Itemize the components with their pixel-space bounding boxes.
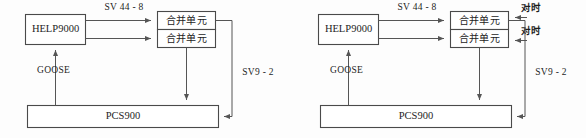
right-edge-label-sv9-2: SV9 - 2 <box>535 67 567 77</box>
left-edge-label-sv-bus: SV 44 - 8 <box>104 2 143 12</box>
right-edge-label-time-sync-bottom: 对时 <box>521 25 541 36</box>
right-merging-unit-top-label: 合并单元 <box>459 14 500 26</box>
left-merging-unit-bottom-label: 合并单元 <box>166 32 207 44</box>
right-edge-label-sv-bus: SV 44 - 8 <box>397 2 436 12</box>
diagram-svg: HELP9000 合并单元 合并单元 PCS900 SV 44 - 8 GOOS… <box>0 0 586 138</box>
left-edge-label-goose: GOOSE <box>37 65 70 75</box>
right-protection-device-label: PCS900 <box>399 110 433 121</box>
left-protection-device-label: PCS900 <box>106 110 140 121</box>
right-controller-label: HELP9000 <box>325 23 372 34</box>
right-edge-label-goose: GOOSE <box>330 65 363 75</box>
left-edge-sv9-2 <box>216 21 233 117</box>
right-merging-unit-bottom-label: 合并单元 <box>459 32 500 44</box>
left-controller-label: HELP9000 <box>32 23 79 34</box>
left-diagram: HELP9000 合并单元 合并单元 PCS900 SV 44 - 8 GOOS… <box>26 2 274 127</box>
diagram-canvas: HELP9000 合并单元 合并单元 PCS900 SV 44 - 8 GOOS… <box>0 0 586 138</box>
right-edge-label-time-sync-top: 对时 <box>521 2 541 13</box>
right-diagram: HELP9000 合并单元 合并单元 PCS900 SV 44 - 8 GOOS… <box>319 2 567 128</box>
left-edge-label-sv9-2: SV9 - 2 <box>242 67 274 77</box>
left-merging-unit-top-label: 合并单元 <box>166 14 207 26</box>
